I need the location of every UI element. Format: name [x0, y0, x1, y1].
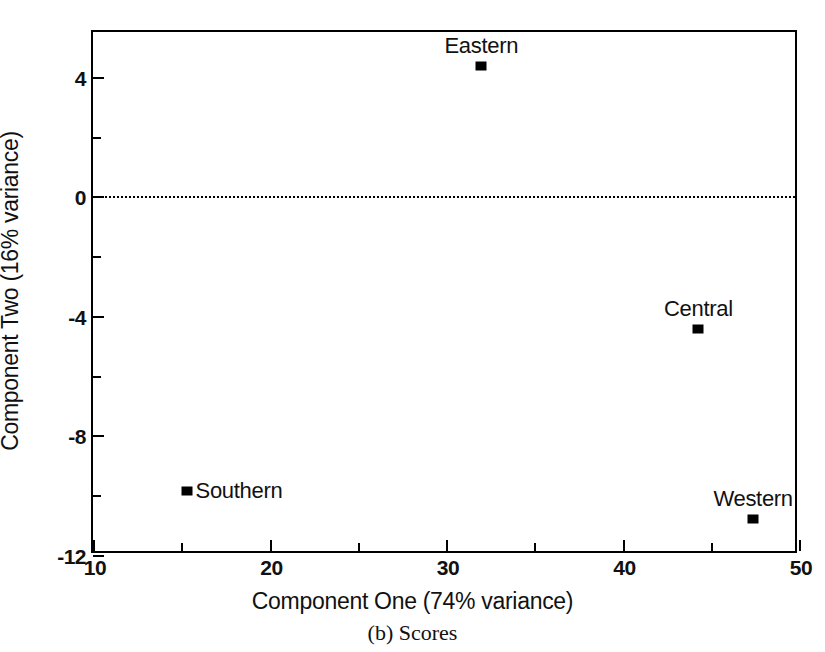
x-axis-title: Component One (74% variance) [0, 588, 825, 615]
plot-area: 40-4-8-12 1020304050 EasternCentralSouth… [91, 30, 797, 553]
data-point-label: Western [713, 486, 792, 512]
y-axis-tick-major: 4 [93, 77, 104, 79]
data-point-marker [181, 486, 192, 495]
y-axis-tick-label: -8 [68, 425, 86, 449]
data-point-label: Eastern [444, 33, 518, 59]
zero-reference-line [93, 196, 795, 198]
x-axis-tick-minor [534, 543, 536, 551]
y-axis-tick-label: -12 [57, 545, 86, 569]
y-axis-tick-minor [93, 256, 101, 258]
x-axis-tick-label: 30 [437, 556, 459, 580]
x-axis-tick-minor [358, 543, 360, 551]
figure-caption: (b) Scores [0, 620, 825, 646]
y-axis-tick-major: 0 [93, 196, 104, 198]
x-axis-tick-label: 20 [260, 556, 282, 580]
x-axis-tick-minor [711, 543, 713, 551]
figure-scores-scatter-plot: 40-4-8-12 1020304050 EasternCentralSouth… [0, 0, 825, 652]
x-axis-tick-label: 50 [790, 556, 812, 580]
x-axis-tick-major: 30 [446, 540, 448, 551]
y-axis-title: Component Two (16% variance) [0, 131, 24, 451]
y-axis-tick-label: 4 [75, 67, 86, 91]
x-axis-tick-major: 40 [623, 540, 625, 551]
y-axis-tick-major: -4 [93, 316, 104, 318]
data-point-label: Central [664, 296, 733, 322]
y-axis-tick-label: 0 [75, 186, 86, 210]
data-point-marker [748, 515, 759, 524]
x-axis-tick-major: 20 [270, 540, 272, 551]
y-axis-tick-minor [93, 376, 101, 378]
data-point-marker [693, 325, 704, 334]
data-point-label: Southern [196, 478, 283, 504]
x-axis-tick-major: 50 [799, 540, 801, 551]
y-axis-tick-label: -4 [68, 306, 86, 330]
y-axis-tick-major: -8 [93, 435, 104, 437]
data-point-marker [476, 62, 487, 71]
x-axis-tick-label: 10 [84, 556, 106, 580]
y-axis-tick-minor [93, 495, 101, 497]
x-axis-tick-label: 40 [613, 556, 635, 580]
x-axis-tick-major: 10 [93, 540, 95, 551]
y-axis-tick-minor [93, 137, 101, 139]
x-axis-tick-minor [181, 543, 183, 551]
